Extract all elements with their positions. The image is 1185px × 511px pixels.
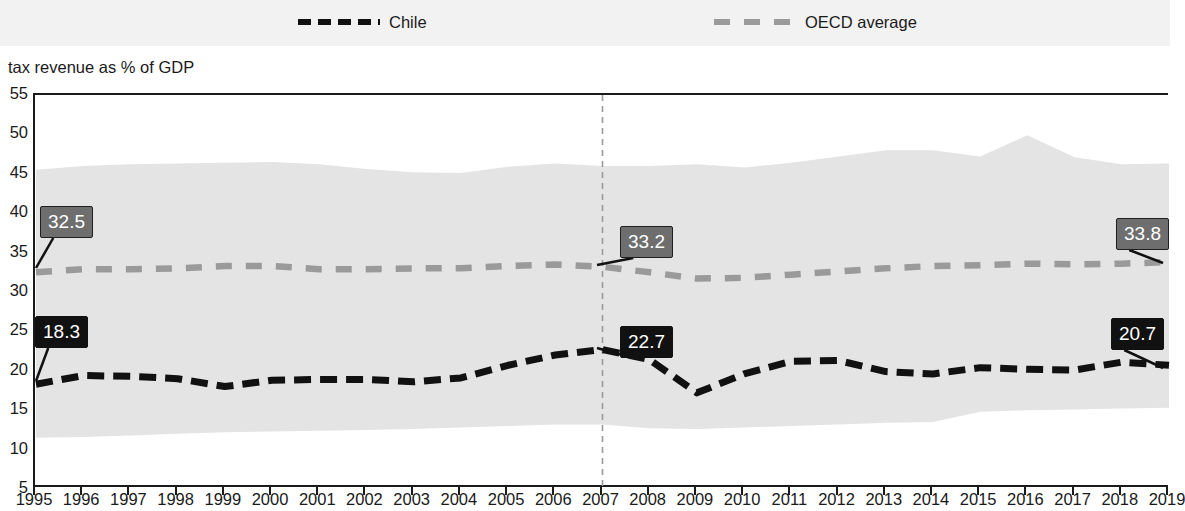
- x-axis-tick-label: 2007: [582, 491, 619, 508]
- data-label-chile-1995: 18.3: [35, 316, 88, 348]
- y-axis-tick-label: 55: [0, 85, 28, 102]
- x-axis-tick-label: 2002: [346, 491, 383, 508]
- x-axis-tick-label: 1995: [16, 491, 53, 508]
- data-label-oecd-2019: 33.8: [1116, 218, 1169, 250]
- x-axis-tick-label: 2003: [393, 491, 430, 508]
- y-axis-tick-label: 45: [0, 164, 28, 181]
- y-axis-tick-label: 30: [0, 282, 28, 299]
- legend-item-chile[interactable]: Chile: [296, 12, 427, 32]
- x-axis-tick-label: 2017: [1054, 491, 1091, 508]
- x-axis-tick-label: 1998: [157, 491, 194, 508]
- legend-item-oecd[interactable]: OECD average: [712, 12, 917, 32]
- plot-canvas: [35, 95, 1170, 489]
- chart-legend: Chile OECD average: [0, 0, 1170, 46]
- x-axis-tick-label: 2001: [299, 491, 336, 508]
- x-axis-tick-label: 2008: [629, 491, 666, 508]
- x-axis-tick-label: 2019: [1149, 491, 1185, 508]
- data-label-oecd-2007: 33.2: [620, 226, 673, 258]
- y-axis-tick-label: 40: [0, 203, 28, 220]
- y-axis-tick-label: 35: [0, 243, 28, 260]
- legend-swatch-oecd: [712, 12, 798, 32]
- data-label-oecd-1995: 32.5: [40, 206, 93, 238]
- y-axis-tick-label: 50: [0, 124, 28, 141]
- x-axis-tick-label: 2010: [724, 491, 761, 508]
- y-axis-tick-label: 10: [0, 440, 28, 457]
- x-axis-tick-label: 2000: [252, 491, 289, 508]
- data-label-chile-2007: 22.7: [620, 326, 673, 358]
- y-axis-tick-label: 20: [0, 361, 28, 378]
- legend-label-oecd: OECD average: [805, 14, 917, 31]
- y-axis-tick-label: 15: [0, 400, 28, 417]
- x-axis-tick-label: 2013: [865, 491, 902, 508]
- x-axis-tick-label: 2004: [441, 491, 478, 508]
- x-axis-tick-label: 2012: [818, 491, 855, 508]
- plot-area: [33, 93, 1168, 487]
- x-axis-tick-label: 1996: [63, 491, 100, 508]
- legend-label-chile: Chile: [389, 14, 427, 31]
- x-axis-tick-label: 1999: [204, 491, 241, 508]
- data-label-chile-2019: 20.7: [1111, 318, 1164, 350]
- x-axis-tick-label: 2006: [535, 491, 572, 508]
- legend-swatch-chile: [296, 12, 382, 32]
- y-axis-title: tax revenue as % of GDP: [8, 58, 194, 77]
- x-axis-tick-label: 2018: [1101, 491, 1138, 508]
- x-axis-tick-label: 2011: [772, 491, 807, 508]
- x-axis-tick-label: 2009: [677, 491, 714, 508]
- x-axis-tick-label: 2016: [1007, 491, 1044, 508]
- y-axis-tick-label: 25: [0, 321, 28, 338]
- x-axis-tick-label: 2014: [913, 491, 950, 508]
- x-axis-tick-label: 2015: [960, 491, 997, 508]
- x-axis-tick-label: 2005: [488, 491, 525, 508]
- x-axis-tick-label: 1997: [110, 491, 147, 508]
